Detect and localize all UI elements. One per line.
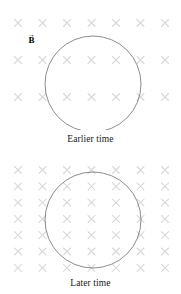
field-into-page-mark (162, 94, 169, 101)
field-into-page-mark (162, 215, 169, 222)
field-into-page-mark (137, 248, 144, 255)
field-into-page-mark (15, 94, 22, 101)
field-into-page-mark (39, 57, 46, 64)
field-into-page-mark (113, 199, 120, 206)
field-into-page-mark (137, 20, 144, 27)
caption-later-time: Later time (0, 278, 181, 288)
field-into-page-mark (88, 215, 95, 222)
panel-earlier-time: → B Earlier time (0, 0, 181, 152)
field-into-page-mark (113, 57, 120, 64)
field-into-page-mark (137, 264, 144, 271)
field-into-page-mark (15, 248, 22, 255)
field-into-page-mark (39, 167, 46, 174)
field-into-page-mark (64, 94, 71, 101)
field-into-page-mark (162, 20, 169, 27)
field-into-page-mark (64, 264, 71, 271)
field-diagram-later (0, 152, 181, 274)
field-into-page-mark (113, 94, 120, 101)
field-into-page-mark (39, 199, 46, 206)
field-into-page-mark (113, 232, 120, 239)
field-into-page-mark (88, 94, 95, 101)
field-into-page-mark (64, 248, 71, 255)
field-region-later (0, 152, 181, 274)
field-into-page-mark (88, 199, 95, 206)
field-into-page-mark (39, 20, 46, 27)
conducting-loop-circle (45, 36, 141, 130)
field-into-page-mark (137, 167, 144, 174)
field-into-page-mark (162, 183, 169, 190)
field-into-page-mark (162, 57, 169, 64)
field-into-page-mark (39, 232, 46, 239)
field-into-page-mark (162, 264, 169, 271)
field-into-page-mark (162, 167, 169, 174)
field-into-page-mark (113, 264, 120, 271)
field-symbol: B (28, 36, 35, 45)
field-into-page-mark (64, 20, 71, 27)
magnetic-field-label-earlier: → B (28, 33, 35, 45)
field-into-page-mark (162, 232, 169, 239)
field-into-page-mark (88, 57, 95, 64)
field-into-page-mark (162, 199, 169, 206)
field-into-page-mark (15, 167, 22, 174)
field-into-page-mark (113, 183, 120, 190)
panel-later-time: → B Later time (0, 152, 181, 294)
field-into-page-mark (39, 94, 46, 101)
field-into-page-mark (162, 248, 169, 255)
field-into-page-mark (39, 264, 46, 271)
field-into-page-mark (64, 183, 71, 190)
field-into-page-mark (15, 215, 22, 222)
field-into-page-mark (64, 232, 71, 239)
field-into-page-mark (113, 20, 120, 27)
field-into-page-mark (15, 264, 22, 271)
field-into-page-mark (64, 199, 71, 206)
field-into-page-mark (15, 183, 22, 190)
field-into-page-mark (137, 57, 144, 64)
field-into-page-mark (137, 183, 144, 190)
field-diagram-earlier (0, 0, 181, 130)
field-into-page-mark (113, 248, 120, 255)
field-into-page-mark (39, 248, 46, 255)
field-into-page-mark (88, 232, 95, 239)
field-into-page-mark (15, 199, 22, 206)
field-into-page-mark (88, 20, 95, 27)
field-into-page-mark (64, 167, 71, 174)
field-into-page-mark (88, 183, 95, 190)
field-into-page-mark (88, 248, 95, 255)
field-into-page-mark (64, 215, 71, 222)
caption-earlier-time: Earlier time (0, 134, 181, 144)
field-into-page-mark (15, 232, 22, 239)
field-into-page-mark (39, 183, 46, 190)
field-into-page-mark (15, 57, 22, 64)
field-into-page-mark (15, 20, 22, 27)
field-into-page-mark (113, 167, 120, 174)
field-region-earlier (0, 0, 181, 130)
field-into-page-mark (113, 215, 120, 222)
field-into-page-mark (64, 57, 71, 64)
